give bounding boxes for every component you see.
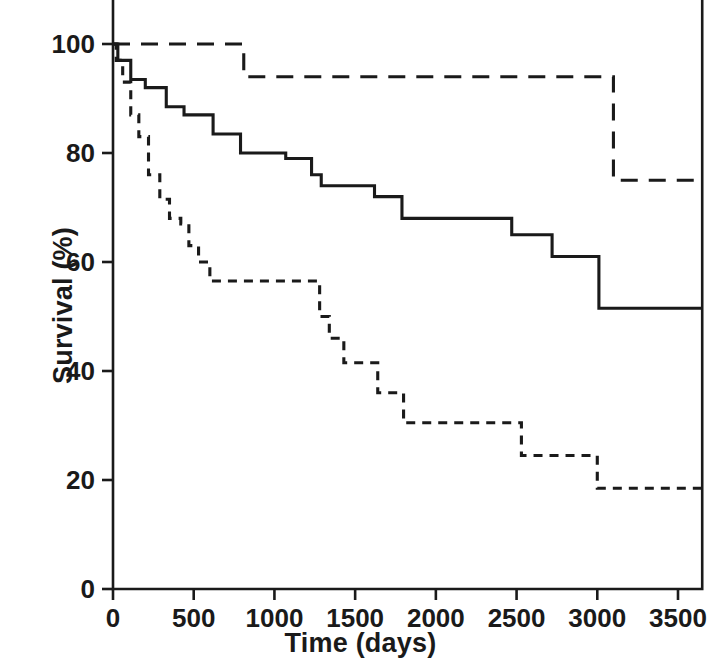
plot-area: 0500100015002000250030003500 02040608010… [0, 0, 721, 668]
x-axis-ticks [113, 589, 678, 600]
y-tick-label-100: 100 [52, 29, 95, 59]
x-axis-label: Time (days) [0, 628, 721, 659]
y-axis-ticks [102, 44, 113, 589]
survival-curves [113, 44, 702, 488]
survival-chart-figure: 0500100015002000250030003500 02040608010… [0, 0, 721, 668]
survival-curve-1 [113, 44, 702, 180]
y-axis-label: Survival (%) [48, 76, 79, 536]
y-tick-label-0: 0 [81, 574, 95, 604]
